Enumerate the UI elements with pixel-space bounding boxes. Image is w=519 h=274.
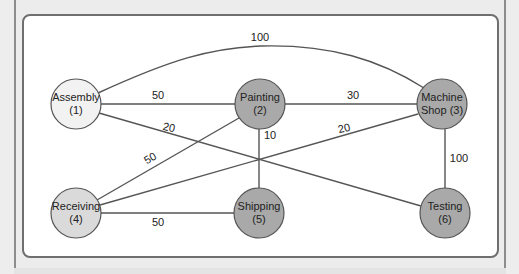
node-label: Shipping xyxy=(238,200,281,212)
node-machine-shop: Machine Shop (3) xyxy=(417,79,467,129)
node-painting: Painting (2) xyxy=(235,79,285,129)
node-receiving: Receiving (4) xyxy=(51,188,101,238)
edge-label-1-2: 50 xyxy=(152,89,164,101)
node-id: (6) xyxy=(438,213,451,225)
process-graph: 100 50 20 30 50 10 20 100 50 Assembly (1… xyxy=(0,0,519,274)
node-id: (5) xyxy=(252,213,265,225)
edge-label-1-6: 20 xyxy=(162,120,176,134)
node-label: Receiving xyxy=(52,200,100,212)
node-label: Testing xyxy=(428,200,463,212)
node-assembly: Assembly (1) xyxy=(51,79,101,129)
node-id: (2) xyxy=(253,104,266,116)
edge-label-2-3: 30 xyxy=(347,89,359,101)
edge-label-1-3: 100 xyxy=(251,31,269,43)
node-id: (4) xyxy=(69,213,82,225)
node-id: (1) xyxy=(69,104,82,116)
node-id: Shop (3) xyxy=(421,104,463,116)
edge-label-3-6: 100 xyxy=(450,152,468,164)
node-shipping: Shipping (5) xyxy=(234,188,284,238)
edge-label-2-4: 50 xyxy=(142,150,159,167)
edge-label-4-5: 50 xyxy=(152,216,164,228)
node-label: Painting xyxy=(240,91,280,103)
node-label: Assembly xyxy=(52,91,100,103)
node-label: Machine xyxy=(421,91,463,103)
edge-label-2-5: 10 xyxy=(264,129,276,141)
node-testing: Testing (6) xyxy=(420,188,470,238)
